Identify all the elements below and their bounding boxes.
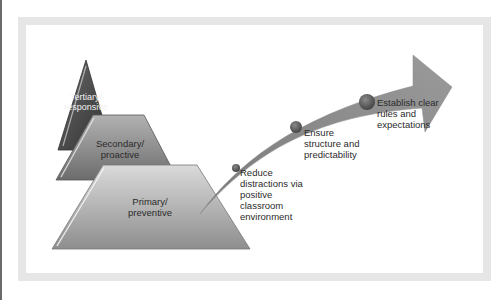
arrow-step-3-label: Establish clear rules and expectations [377, 97, 439, 130]
tier-primary-line2: preventive [110, 207, 190, 218]
step-3-line: expectations [377, 119, 439, 130]
tier-primary-line1: Primary/ [110, 196, 190, 207]
diagram-canvas [0, 0, 504, 300]
step-2-line: predictability [304, 149, 359, 160]
step-1-line: Reduce [240, 167, 303, 178]
step-1-line: environment [240, 211, 303, 222]
tier-secondary-label: Secondary/ proactive [80, 138, 160, 160]
tier-primary-label: Primary/ preventive [110, 196, 190, 218]
step-1-line: distractions via [240, 178, 303, 189]
step-dot-1 [232, 164, 240, 172]
step-3-line: rules and [377, 108, 439, 119]
tier-tertiary-line2: responsive [60, 102, 112, 112]
arrow-step-1-label: Reduce distractions via positive classro… [240, 167, 303, 222]
tier-tertiary-label: Tertiary/ responsive [60, 92, 112, 112]
step-1-line: classroom [240, 200, 303, 211]
tier-secondary-line2: proactive [80, 149, 160, 160]
step-2-line: Ensure [304, 127, 359, 138]
tier-tertiary-line1: Tertiary/ [60, 92, 112, 102]
step-2-line: structure and [304, 138, 359, 149]
tier-secondary-line1: Secondary/ [80, 138, 160, 149]
step-1-line: positive [240, 189, 303, 200]
step-dot-3 [359, 94, 375, 110]
arrow-step-2-label: Ensure structure and predictability [304, 127, 359, 160]
step-dot-2 [290, 121, 302, 133]
step-3-line: Establish clear [377, 97, 439, 108]
